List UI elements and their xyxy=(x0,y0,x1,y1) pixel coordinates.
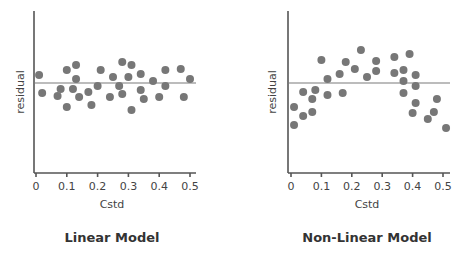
data-point xyxy=(323,91,331,99)
data-point xyxy=(63,66,71,74)
data-point xyxy=(161,82,169,90)
data-point xyxy=(72,61,80,69)
x-tick-label: 0.5 xyxy=(434,180,452,193)
x-tick-label: 0.2 xyxy=(343,180,361,193)
x-tick-label: 0.3 xyxy=(373,180,391,193)
data-point xyxy=(336,70,344,78)
data-point xyxy=(106,93,114,101)
data-point xyxy=(323,75,331,83)
data-point xyxy=(399,89,407,97)
data-point xyxy=(424,115,432,123)
x-axis-label: Cstd xyxy=(355,198,380,211)
data-point xyxy=(137,70,145,78)
data-point xyxy=(390,53,398,61)
x-tick-label: 0.2 xyxy=(89,180,107,193)
data-point xyxy=(412,99,420,107)
data-points xyxy=(290,46,450,132)
data-point xyxy=(186,75,194,83)
x-tick-label: 0.3 xyxy=(120,180,138,193)
data-point xyxy=(442,124,450,132)
x-tick-label: 0.5 xyxy=(181,180,199,193)
data-point xyxy=(75,93,83,101)
data-point xyxy=(308,108,316,116)
data-point xyxy=(357,46,365,54)
data-point xyxy=(109,73,117,81)
data-point xyxy=(433,95,441,103)
data-point xyxy=(155,93,163,101)
x-ticks: 00.10.20.30.40.5 xyxy=(33,173,199,193)
data-point xyxy=(137,86,145,94)
data-point xyxy=(72,75,80,83)
non-linear-model-plot: 00.10.20.30.40.5 residual Cstd Non-Linea… xyxy=(266,11,452,245)
x-tick-label: 0.1 xyxy=(313,180,331,193)
chart-canvas: 00.10.20.30.40.5 residual Cstd Linear Mo… xyxy=(0,0,467,259)
x-tick-label: 0.4 xyxy=(150,180,168,193)
data-point xyxy=(57,85,65,93)
data-point xyxy=(363,73,371,81)
x-tick-label: 0 xyxy=(33,180,40,193)
data-point xyxy=(412,71,420,79)
data-point xyxy=(311,86,319,94)
data-point xyxy=(342,58,350,66)
data-point xyxy=(299,88,307,96)
data-point xyxy=(118,58,126,66)
data-point xyxy=(399,66,407,74)
data-point xyxy=(35,71,43,79)
y-axis-label: residual xyxy=(14,70,27,114)
x-tick-label: 0.4 xyxy=(404,180,422,193)
data-point xyxy=(399,77,407,85)
data-point xyxy=(290,103,298,111)
data-point xyxy=(87,101,95,109)
data-point xyxy=(69,85,77,93)
x-ticks: 00.10.20.30.40.5 xyxy=(288,173,452,193)
x-tick-label: 0 xyxy=(288,180,295,193)
data-point xyxy=(127,61,135,69)
data-point xyxy=(409,109,417,117)
data-point xyxy=(317,56,325,64)
x-tick-label: 0.1 xyxy=(58,180,76,193)
data-point xyxy=(372,57,380,65)
linear-model-plot: 00.10.20.30.40.5 residual Cstd Linear Mo… xyxy=(14,11,199,245)
data-point xyxy=(180,93,188,101)
y-axis-label: residual xyxy=(266,70,279,114)
data-point xyxy=(97,66,105,74)
data-point xyxy=(127,106,135,114)
data-point xyxy=(118,90,126,98)
data-points xyxy=(35,58,194,114)
chart-title: Non-Linear Model xyxy=(302,230,431,245)
data-point xyxy=(124,73,132,81)
data-point xyxy=(430,108,438,116)
data-point xyxy=(161,66,169,74)
data-point xyxy=(38,89,46,97)
data-point xyxy=(115,82,123,90)
data-point xyxy=(54,92,62,100)
data-point xyxy=(308,95,316,103)
data-point xyxy=(299,112,307,120)
data-point xyxy=(84,88,92,96)
data-point xyxy=(149,77,157,85)
chart-title: Linear Model xyxy=(65,230,160,245)
data-point xyxy=(290,121,298,129)
data-point xyxy=(63,103,71,111)
x-axis-label: Cstd xyxy=(100,198,125,211)
data-point xyxy=(339,89,347,97)
data-point xyxy=(372,67,380,75)
data-point xyxy=(94,82,102,90)
data-point xyxy=(406,50,414,58)
data-point xyxy=(351,65,359,73)
data-point xyxy=(412,82,420,90)
data-point xyxy=(390,69,398,77)
data-point xyxy=(177,65,185,73)
data-point xyxy=(140,95,148,103)
